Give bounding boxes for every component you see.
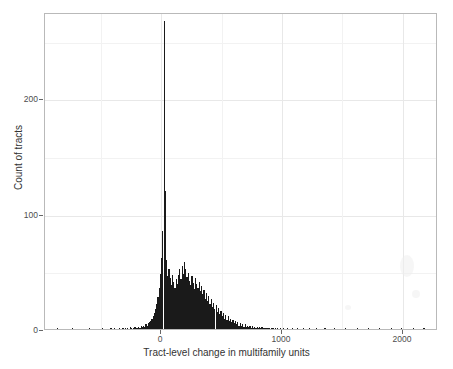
histogram-bar — [345, 328, 346, 329]
x-tick-mark — [160, 330, 161, 334]
histogram-bars — [45, 14, 436, 329]
y-tick-label: 0 — [0, 325, 38, 335]
histogram-bar — [122, 328, 123, 329]
histogram-bar — [89, 328, 90, 329]
y-tick-mark — [39, 330, 43, 331]
histogram-bar — [297, 328, 298, 329]
histogram-bar — [119, 328, 120, 329]
histogram-bar — [436, 328, 437, 329]
histogram-bar — [125, 328, 126, 329]
histogram-bar — [309, 328, 310, 329]
plot-panel — [44, 13, 437, 330]
histogram-bar — [127, 328, 128, 329]
histogram-figure: 0100200 Count of tracts 010002000 Tract-… — [0, 0, 453, 369]
scan-artifact — [412, 290, 420, 298]
histogram-bar — [334, 328, 335, 329]
histogram-bar — [287, 328, 288, 329]
histogram-bar — [303, 328, 304, 329]
x-tick-label: 2000 — [382, 334, 422, 344]
histogram-bar — [379, 328, 380, 329]
histogram-bar — [413, 328, 414, 329]
x-tick-label: 0 — [140, 334, 180, 344]
histogram-bar — [269, 328, 270, 329]
histogram-bar — [391, 328, 392, 329]
histogram-bar — [131, 328, 132, 329]
histogram-bar — [72, 328, 73, 329]
histogram-bar — [357, 328, 358, 329]
histogram-bar — [114, 328, 115, 329]
histogram-bar — [110, 328, 111, 329]
x-tick-mark — [281, 330, 282, 334]
x-tick-mark — [402, 330, 403, 334]
x-axis-title: Tract-level change in multifamily units — [0, 347, 453, 358]
histogram-bar — [283, 328, 284, 329]
histogram-bar — [57, 328, 58, 329]
y-tick-mark — [39, 215, 43, 216]
y-tick-mark — [39, 99, 43, 100]
histogram-bar — [316, 328, 317, 329]
histogram-bar — [275, 328, 276, 329]
scan-artifact — [345, 305, 351, 310]
histogram-bar — [277, 328, 278, 329]
histogram-bar — [324, 328, 325, 329]
x-tick-label: 1000 — [261, 334, 301, 344]
histogram-bar — [423, 328, 424, 329]
y-axis-title: Count of tracts — [13, 98, 24, 218]
histogram-bar — [368, 328, 369, 329]
histogram-bar — [280, 328, 281, 329]
histogram-bar — [102, 328, 103, 329]
histogram-bar — [272, 328, 273, 329]
scan-artifact — [400, 255, 414, 277]
histogram-bar — [292, 328, 293, 329]
histogram-bar — [401, 328, 402, 329]
